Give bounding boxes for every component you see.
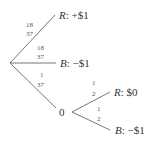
svg-text:1: 1 [97,105,101,113]
svg-text:1: 1 [92,79,96,87]
branch-zero-to-b [72,112,110,130]
svg-text:2: 2 [97,115,101,123]
svg-text:18: 18 [37,44,45,52]
prob-root-r: 18 37 [26,21,34,38]
prob-root-zero: 1 37 [37,71,45,89]
svg-text:37: 37 [37,53,45,61]
svg-text:37: 37 [37,81,45,89]
node-zero: 0 [59,106,65,118]
leaf-r-zero: R: $0 [113,86,138,98]
leaf-b-minus1-sub: B: −$1 [115,124,145,136]
svg-text:2: 2 [92,90,96,98]
prob-zero-r: 1 2 [92,79,96,98]
svg-text:37: 37 [26,30,34,38]
tree-svg: 18 37 18 37 1 37 1 2 1 2 R: +$1 B: −$1 0… [0,0,149,150]
prob-root-b: 18 37 [37,44,45,61]
probability-tree-diagram: 18 37 18 37 1 37 1 2 1 2 R: +$1 B: −$1 0… [0,0,149,150]
svg-text:18: 18 [26,21,34,29]
leaf-b-minus1: B: −$1 [60,57,90,69]
branch-root-to-zero [10,63,56,108]
svg-text:1: 1 [40,71,44,79]
branch-zero-to-r [72,92,110,112]
prob-zero-b: 1 2 [97,105,101,123]
leaf-r-plus1: R: +$1 [58,9,89,21]
